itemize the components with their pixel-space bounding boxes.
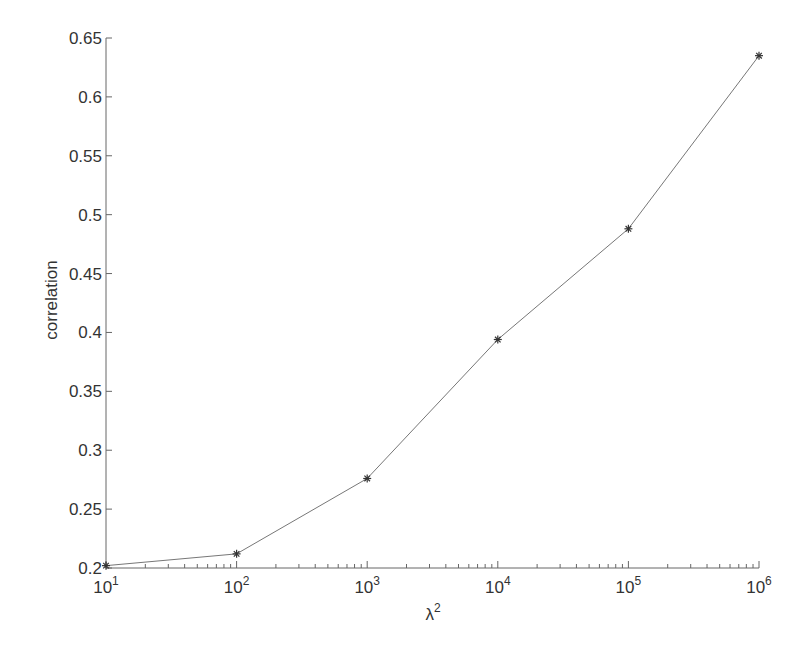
x-tick-label: 104 (485, 574, 511, 597)
x-axis: 101102103104105106 (93, 561, 772, 597)
data-series (102, 52, 763, 570)
y-tick-label: 0.55 (69, 147, 102, 166)
y-tick-label: 0.2 (78, 559, 102, 578)
y-tick-label: 0.65 (69, 29, 102, 48)
x-tick-label: 103 (354, 574, 380, 597)
x-tick-label: 101 (93, 574, 119, 597)
x-tick-label: 105 (616, 574, 642, 597)
line-chart: 0.20.250.30.350.40.450.50.550.60.65 1011… (0, 0, 810, 658)
y-tick-label: 0.4 (78, 323, 102, 342)
x-axis-label: λ2 (425, 601, 441, 624)
asterisk-marker (233, 550, 241, 558)
series-line (106, 56, 759, 566)
y-tick-label: 0.5 (78, 206, 102, 225)
asterisk-marker (102, 562, 110, 570)
y-tick-label: 0.3 (78, 441, 102, 460)
asterisk-marker (494, 336, 502, 344)
x-tick-label: 102 (224, 574, 250, 597)
y-tick-label: 0.35 (69, 382, 102, 401)
y-axis: 0.20.250.30.350.40.450.50.550.60.65 (69, 29, 112, 578)
y-tick-label: 0.25 (69, 500, 102, 519)
asterisk-marker (624, 225, 632, 233)
y-axis-label: correlation (42, 260, 61, 339)
x-tick-label: 106 (746, 574, 772, 597)
y-tick-label: 0.45 (69, 265, 102, 284)
y-tick-label: 0.6 (78, 88, 102, 107)
asterisk-marker (755, 52, 763, 60)
asterisk-marker (363, 474, 371, 482)
